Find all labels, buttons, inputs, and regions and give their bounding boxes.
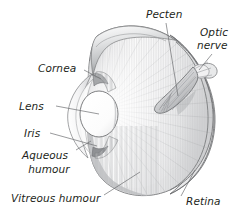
label-aqueous-line2: humour [28,163,70,175]
label-vitreous-humour: Vitreous humour [11,192,101,204]
label-cornea: Cornea [38,62,76,74]
label-optic-nerve-line2: nerve [197,39,228,51]
label-retina: Retina [186,195,220,207]
label-aqueous-line1: Aqueous [21,149,69,161]
label-iris: Iris [24,127,41,139]
label-lens: Lens [19,100,44,112]
eye-diagram-svg: Pecten Optic nerve Cornea Lens Iris Aque… [0,0,241,216]
label-pecten: Pecten [146,8,182,20]
label-optic-nerve-line1: Optic [200,26,228,38]
eye-anatomy-figure: Pecten Optic nerve Cornea Lens Iris Aque… [0,0,241,216]
